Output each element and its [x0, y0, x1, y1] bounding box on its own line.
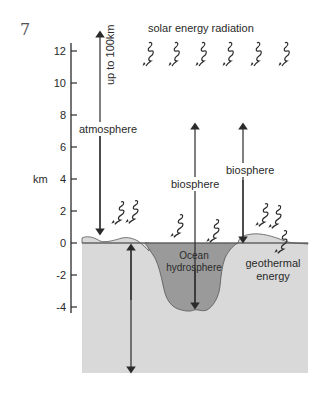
wave-icon: [111, 201, 125, 226]
axis-tick-label: 4: [60, 173, 66, 185]
axis-tick-label: 0: [60, 237, 66, 249]
hydrosphere-label: hydrosphere: [166, 262, 222, 273]
wave-icon: [125, 200, 139, 225]
axis-tick-label: 6: [60, 141, 66, 153]
wave-icon: [170, 214, 184, 239]
km-axis: 121086420-2-4: [54, 43, 77, 313]
energy-label: energy: [256, 270, 290, 282]
wave-icon: [251, 42, 262, 66]
earth-spheres-diagram: 7 121086420-2-4 km up to 100km atmospher…: [0, 0, 328, 393]
axis-tick-label: -4: [56, 301, 66, 313]
wave-icon: [223, 42, 234, 66]
atmosphere-label: atmosphere: [79, 123, 137, 135]
biosphere-land-label: biosphere: [226, 164, 274, 176]
up-to-100km-label: up to 100km: [104, 24, 116, 85]
wave-icon: [196, 42, 207, 66]
axis-tick-label: 2: [60, 205, 66, 217]
biosphere-ocean-label: biosphere: [171, 178, 219, 190]
solar-wave-icons: [143, 42, 290, 66]
axis-tick-label: 12: [54, 45, 66, 57]
wave-icon: [255, 203, 269, 228]
ocean-label: Ocean: [179, 250, 208, 261]
axis-unit-label: km: [33, 173, 48, 185]
wave-icon: [143, 42, 154, 66]
figure-number: 7: [20, 20, 30, 39]
wave-icon: [206, 219, 220, 244]
geothermal-label: geothermal: [245, 257, 300, 269]
solar-radiation-label: solar energy radiation: [148, 22, 254, 34]
wave-icon: [279, 42, 290, 66]
axis-tick-label: 8: [60, 109, 66, 121]
wave-icon: [268, 205, 282, 230]
axis-tick-label: -2: [56, 269, 66, 281]
wave-icon: [169, 42, 180, 66]
axis-tick-label: 10: [54, 77, 66, 89]
right-land: [238, 234, 308, 244]
